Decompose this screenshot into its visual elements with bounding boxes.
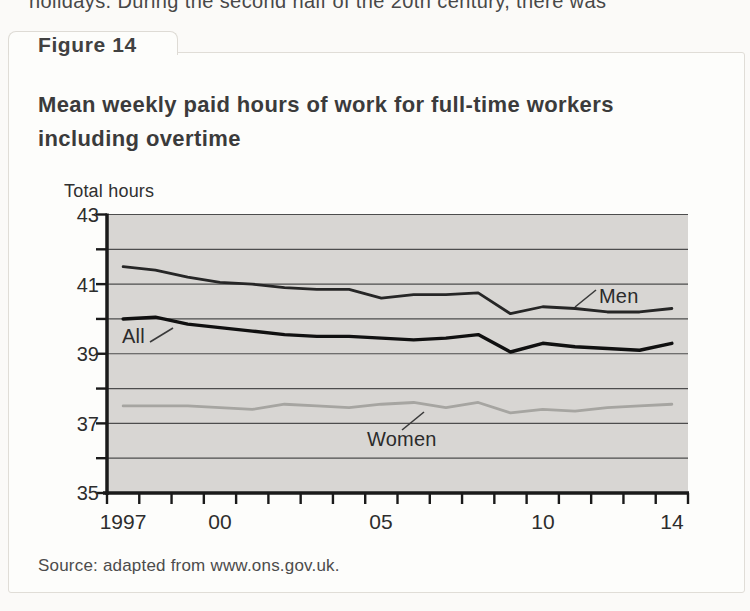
figure-title-line2: including overtime: [38, 126, 241, 152]
source-text: Source: adapted from www.ons.gov.uk.: [38, 556, 340, 576]
x-tick-label: 1997: [78, 510, 168, 534]
x-tick-label: 05: [336, 510, 426, 534]
y-tick-label: 41: [45, 274, 99, 296]
y-tick-label: 43: [45, 204, 99, 226]
men-series-label: Men: [599, 285, 639, 308]
x-tick-label: 14: [627, 510, 717, 534]
y-tick-label: 35: [45, 482, 99, 504]
document-page: { "page": { "top_text": "holidays. Durin…: [0, 0, 750, 611]
x-tick-label: 00: [175, 510, 265, 534]
body-text-fragment: holidays. During the second half of the …: [29, 0, 606, 13]
y-tick-label: 37: [45, 413, 99, 435]
y-tick-label: 39: [45, 343, 99, 365]
women-series-label: Women: [367, 428, 437, 451]
all-series-label: All: [122, 325, 145, 348]
x-tick-label: 10: [498, 510, 588, 534]
figure-title-line1: Mean weekly paid hours of work for full-…: [38, 92, 614, 118]
figure-number-label: Figure 14: [38, 33, 137, 57]
y-axis-title: Total hours: [64, 181, 154, 202]
